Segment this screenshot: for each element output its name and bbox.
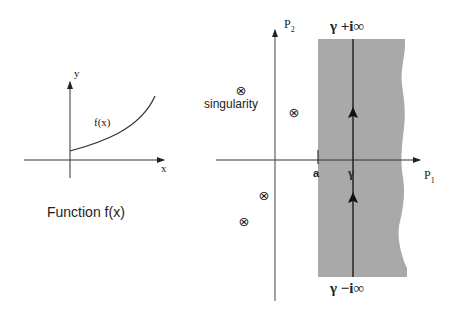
- gamma-label: γ: [347, 165, 354, 180]
- y-axis-label: y: [74, 67, 80, 79]
- function-plot: y x f(x) Function f(x): [24, 67, 167, 220]
- convergence-region: [318, 39, 407, 277]
- lower-limit-label: γ −i∞: [329, 280, 364, 296]
- singularity-marker: ⊗: [289, 105, 300, 120]
- upper-limit-label: γ +i∞: [329, 18, 364, 34]
- singularity-label: singularity: [204, 97, 258, 111]
- curve-label: f(x): [94, 116, 111, 129]
- p2-axis-label: P2: [284, 17, 295, 34]
- singularity-marker: ⊗: [259, 188, 270, 203]
- complex-plane: P2 P1 γ +i∞ γ −i∞ γ a ⊗ singularity ⊗ ⊗ …: [204, 17, 435, 301]
- singularity-marker: ⊗: [236, 83, 247, 98]
- function-curve: [70, 96, 155, 151]
- function-caption: Function f(x): [47, 204, 125, 220]
- diagram-canvas: y x f(x) Function f(x) P2 P1 γ +i∞ γ −i∞…: [0, 0, 457, 315]
- p1-axis-label: P1: [424, 168, 435, 185]
- abscissa-label: a: [313, 167, 320, 179]
- x-axis-label: x: [161, 162, 167, 174]
- singularity-marker: ⊗: [239, 214, 250, 229]
